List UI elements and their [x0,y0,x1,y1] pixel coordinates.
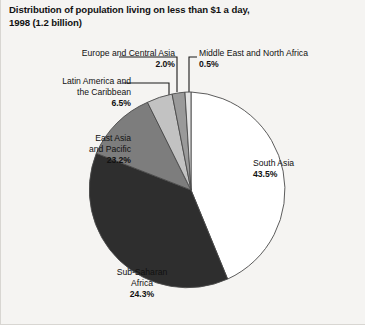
callout-south-asia: South Asia 43.5% [253,158,359,180]
pie-slices [89,92,285,288]
callout-label-europe: Europe and Central Asia [29,48,175,59]
callout-label-subsaharan-line-1: Sub-Saharan [79,267,205,278]
pie-chart: Europe and Central Asia 2.0% Middle East… [1,0,365,325]
callout-east-asia-pacific: East Asia and Pacific 23.2% [9,133,131,166]
callout-label-subsaharan-line-2: Africa [79,278,205,289]
callout-label-eastasia-line-2: and Pacific [9,144,131,155]
callout-pct-europe: 2.0% [29,59,175,70]
callout-label-mena: Middle East and North Africa [199,48,359,59]
callout-sub-saharan-africa: Sub-Saharan Africa 24.3% [79,267,205,300]
callout-label-southasia: South Asia [253,158,359,169]
callout-pct-subsaharan: 24.3% [79,289,205,300]
chart-figure: Distribution of population living on les… [0,0,365,325]
callout-pct-mena: 0.5% [199,59,359,70]
callout-pct-southasia: 43.5% [253,169,359,180]
callout-label-eastasia-line-1: East Asia [9,133,131,144]
callout-pct-eastasia: 23.2% [9,155,131,166]
callout-label-latin-line-2: the Caribbean [9,87,131,98]
callout-europe-central-asia: Europe and Central Asia 2.0% [29,48,175,70]
callout-latin-america-caribbean: Latin America and the Caribbean 6.5% [9,76,131,109]
callout-middle-east-north-africa: Middle East and North Africa 0.5% [199,48,359,70]
callout-label-latin-line-1: Latin America and [9,76,131,87]
callout-pct-latin: 6.5% [9,98,131,109]
